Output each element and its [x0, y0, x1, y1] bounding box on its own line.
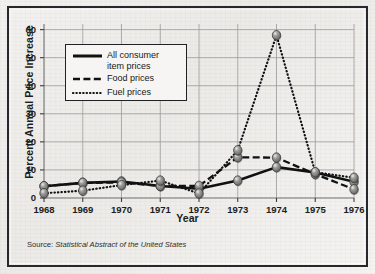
- data-point-marker: [40, 188, 49, 199]
- data-point-marker: [272, 153, 281, 164]
- source-note: Source: Statistical Abstract of the Unit…: [27, 240, 186, 249]
- legend-label-line2: item prices: [107, 61, 151, 71]
- data-point-marker: [117, 180, 126, 191]
- legend-label-all-consumer: All consumer item prices: [107, 50, 159, 71]
- source-publication: Statistical Abstract of the United State…: [55, 240, 186, 249]
- data-point-marker: [272, 162, 281, 173]
- x-axis-title: Year: [0, 212, 375, 224]
- legend-key-dashed-line: [72, 73, 103, 84]
- chart-legend: All consumer item prices Food prices Fue…: [65, 44, 187, 101]
- legend-key-solid-line: [72, 50, 103, 61]
- data-point-marker: [79, 186, 88, 197]
- chart-figure: 0102030405060 19681969197019711972197319…: [0, 0, 375, 274]
- legend-label-fuel: Fuel prices: [107, 87, 151, 98]
- y-axis-title: Percent Annual Price Increase: [23, 17, 35, 187]
- line-chart-plot: [0, 0, 375, 274]
- data-point-marker: [350, 185, 359, 196]
- legend-label-line1: All consumer: [107, 50, 159, 60]
- legend-item-all-consumer: All consumer item prices: [72, 50, 159, 71]
- legend-label-food: Food prices: [107, 73, 154, 84]
- y-tick-label: 0: [14, 192, 36, 203]
- legend-key-dotted-line: [72, 87, 103, 98]
- legend-item-fuel: Fuel prices: [72, 87, 151, 98]
- data-point-marker: [272, 30, 281, 41]
- source-prefix: Source:: [27, 240, 53, 249]
- data-point-marker: [234, 176, 243, 187]
- legend-item-food: Food prices: [72, 73, 154, 84]
